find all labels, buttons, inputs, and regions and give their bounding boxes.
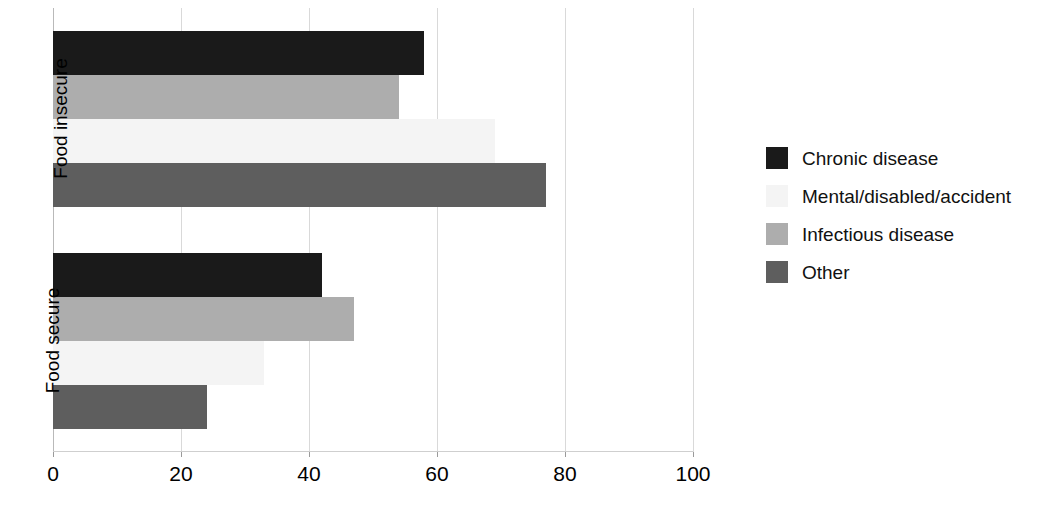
- legend-swatch-icon: [766, 185, 788, 207]
- legend: Chronic diseaseMental/disabled/accidentI…: [766, 139, 1056, 291]
- bar: [53, 75, 399, 119]
- bar: [53, 297, 354, 341]
- legend-item: Other: [766, 253, 1056, 291]
- gridline-80: [565, 8, 566, 452]
- bar: [53, 385, 207, 429]
- x-tick-label: 0: [23, 462, 83, 486]
- legend-item-label: Mental/disabled/accident: [802, 187, 1011, 206]
- gridline-60: [437, 8, 438, 452]
- bar: [53, 163, 546, 207]
- tick-40: [309, 452, 310, 457]
- bar: [53, 31, 424, 75]
- y-axis-category-label: Food secure: [0, 331, 46, 350]
- y-axis-category-label: Food insecure: [0, 109, 46, 128]
- tick-80: [565, 452, 566, 457]
- y-axis-category-label-text: Food secure: [43, 288, 62, 394]
- chart-figure: Food insecureFood secure 020406080100 Ch…: [0, 0, 1062, 507]
- x-tick-label: 100: [663, 462, 723, 486]
- legend-item: Chronic disease: [766, 139, 1056, 177]
- tick-0: [53, 452, 54, 457]
- legend-swatch-icon: [766, 147, 788, 169]
- legend-swatch-icon: [766, 223, 788, 245]
- legend-item: Infectious disease: [766, 215, 1056, 253]
- legend-item-label: Other: [802, 263, 850, 282]
- plot-area: [53, 8, 693, 452]
- x-tick-label: 80: [535, 462, 595, 486]
- tick-100: [693, 452, 694, 457]
- tick-20: [181, 452, 182, 457]
- tick-60: [437, 452, 438, 457]
- bar: [53, 119, 495, 163]
- x-tick-label: 60: [407, 462, 467, 486]
- x-axis-line: [53, 451, 693, 452]
- gridline-100: [693, 8, 694, 452]
- legend-item-label: Chronic disease: [802, 149, 938, 168]
- legend-swatch-icon: [766, 261, 788, 283]
- x-tick-label: 40: [279, 462, 339, 486]
- x-tick-label: 20: [151, 462, 211, 486]
- bar: [53, 341, 264, 385]
- y-axis-category-label-text: Food insecure: [51, 58, 70, 178]
- legend-item: Mental/disabled/accident: [766, 177, 1056, 215]
- legend-item-label: Infectious disease: [802, 225, 954, 244]
- bar: [53, 253, 322, 297]
